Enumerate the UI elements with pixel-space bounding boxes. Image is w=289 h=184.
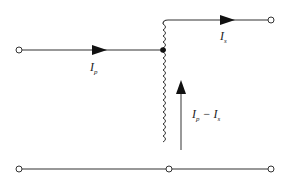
winding-current-arrow-icon — [176, 80, 186, 94]
winding-coil — [163, 24, 166, 142]
secondary-current-arrow-icon — [220, 15, 235, 25]
label-primary-current: Ip — [90, 60, 98, 76]
primary-terminal-top — [16, 47, 22, 53]
tap-junction-dot — [160, 47, 166, 53]
circuit-diagram — [0, 0, 289, 184]
secondary-terminal-top — [268, 17, 274, 23]
label-winding-current: Ip − Is — [192, 107, 220, 123]
winding-terminal-bottom — [166, 166, 172, 172]
secondary-wire — [163, 20, 268, 24]
primary-terminal-bottom — [16, 166, 22, 172]
secondary-terminal-bottom — [268, 166, 274, 172]
label-secondary-current: Is — [220, 29, 227, 45]
primary-current-arrow-icon — [92, 45, 107, 55]
